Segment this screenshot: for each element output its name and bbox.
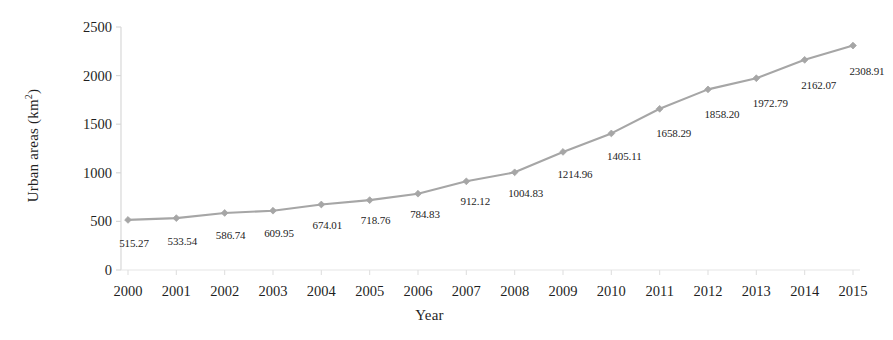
data-point-label: 1858.20 — [704, 108, 739, 120]
x-axis-tick-label: 2009 — [549, 283, 578, 300]
data-point-label: 1004.83 — [508, 187, 543, 199]
data-point-label: 912.12 — [461, 195, 491, 207]
x-axis-tick-label: 2010 — [597, 283, 626, 300]
x-axis-tick-label: 2011 — [645, 283, 673, 300]
x-axis-tick-label: 2013 — [742, 283, 771, 300]
x-axis-tick-label: 2015 — [839, 283, 868, 300]
data-point-label: 784.83 — [410, 208, 440, 220]
y-axis-tick-label: 2500 — [56, 19, 112, 36]
y-axis-tick-label: 1500 — [56, 116, 112, 133]
x-axis-tick-label: 2012 — [694, 283, 723, 300]
x-axis-tick-label: 2000 — [114, 283, 143, 300]
x-axis-tick-label: 2008 — [500, 283, 529, 300]
data-point-label: 1972.79 — [753, 97, 788, 109]
data-point-label: 2308.91 — [849, 65, 884, 77]
chart-figure: Urban areas (km2) Year 05001000150020002… — [0, 0, 893, 340]
data-point-label: 718.76 — [361, 214, 391, 226]
data-point-label: 1658.29 — [656, 127, 691, 139]
x-axis-tick-label: 2004 — [307, 283, 336, 300]
y-axis-tick-label: 0 — [56, 262, 112, 279]
data-point-label: 674.01 — [313, 219, 343, 231]
data-point-label: 1405.11 — [607, 150, 642, 162]
data-point-label: 515.27 — [119, 237, 149, 249]
data-point-label: 586.74 — [216, 229, 246, 241]
x-axis-title: Year — [0, 307, 893, 324]
data-point-label: 1214.96 — [557, 168, 592, 180]
data-point-label: 533.54 — [168, 235, 198, 247]
data-point-label: 2162.07 — [801, 79, 836, 91]
x-axis-tick-label: 2002 — [210, 283, 239, 300]
x-axis-tick-label: 2003 — [259, 283, 288, 300]
data-point-label: 609.95 — [264, 227, 294, 239]
x-axis-tick-label: 2006 — [404, 283, 433, 300]
x-axis-tick-label: 2001 — [162, 283, 191, 300]
y-axis-tick-label: 500 — [56, 213, 112, 230]
x-axis-tick-label: 2005 — [355, 283, 384, 300]
x-axis-tick-label: 2014 — [790, 283, 819, 300]
x-axis-tick-label: 2007 — [452, 283, 481, 300]
y-axis-tick-label: 2000 — [56, 67, 112, 84]
x-axis-title-text: Year — [415, 307, 443, 324]
y-axis-tick-label: 1000 — [56, 164, 112, 181]
